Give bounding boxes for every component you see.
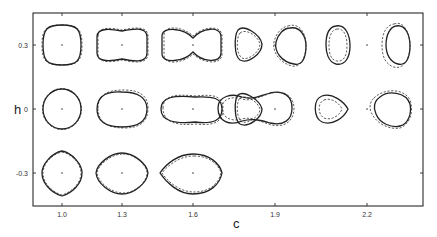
panel-c1.3-h0 bbox=[97, 90, 148, 128]
panel-c1.0-h-0.3 bbox=[42, 151, 82, 196]
center-marker bbox=[274, 44, 276, 46]
center-marker bbox=[192, 108, 194, 110]
y-axis-label: h bbox=[14, 102, 21, 117]
panel-c1.3-h0.3 bbox=[97, 28, 148, 62]
panel-c1.0-h0 bbox=[43, 89, 82, 130]
center-marker bbox=[366, 44, 368, 46]
panel-c2.2-h0 bbox=[315, 91, 411, 129]
center-marker bbox=[121, 172, 123, 174]
panel-c1.0-h0.3 bbox=[42, 25, 82, 65]
plot-frame bbox=[33, 13, 423, 206]
x-tick-label: 1.3 bbox=[117, 211, 127, 218]
center-marker bbox=[121, 44, 123, 46]
y-tick-label: -0.3 bbox=[16, 170, 28, 177]
center-marker bbox=[192, 172, 194, 174]
x-axis-label: c bbox=[233, 216, 240, 231]
x-tick-label: 1.9 bbox=[270, 211, 280, 218]
center-marker bbox=[366, 108, 368, 110]
x-tick-label: 1.6 bbox=[188, 211, 198, 218]
center-marker bbox=[274, 108, 276, 110]
x-tick-label: 1.0 bbox=[57, 211, 67, 218]
y-axis-ticks bbox=[33, 45, 423, 173]
x-tick-label: 2.2 bbox=[362, 211, 372, 218]
panel-c1.3-h-0.3 bbox=[96, 153, 148, 194]
y-tick-label: 0 bbox=[24, 106, 28, 113]
x-axis-ticks bbox=[62, 13, 367, 206]
panel-c2.2-h0.3 bbox=[326, 23, 410, 67]
center-marker bbox=[121, 108, 123, 110]
center-marker bbox=[61, 172, 63, 174]
center-marker bbox=[61, 108, 63, 110]
center-marker bbox=[192, 44, 194, 46]
panel-c1.9-h0 bbox=[218, 92, 294, 125]
panel-c1.6-h0.3 bbox=[162, 28, 222, 62]
y-tick-label: 0.3 bbox=[18, 42, 28, 49]
panel-c1.6-h0 bbox=[161, 95, 223, 124]
center-marker bbox=[61, 44, 63, 46]
panel-c1.9-h0.3 bbox=[235, 25, 306, 66]
figure-canvas: 1.0 1.3 1.6 1.9 2.2 0.3 0 -0.3 h c bbox=[0, 0, 437, 237]
panel-c1.6-h-0.3 bbox=[160, 154, 222, 194]
